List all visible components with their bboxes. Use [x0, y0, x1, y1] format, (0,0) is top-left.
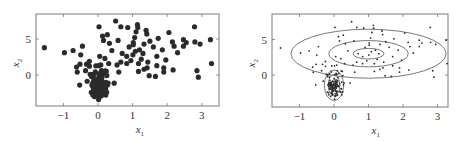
data-point [337, 85, 339, 87]
data-point [433, 76, 435, 78]
data-point [96, 24, 101, 29]
data-point [300, 52, 302, 54]
data-point [91, 75, 96, 80]
data-point [390, 76, 392, 78]
data-point [197, 41, 202, 46]
data-point [336, 84, 338, 86]
data-point [331, 65, 333, 67]
x-tick-label: −1 [58, 109, 70, 121]
data-point [145, 59, 150, 64]
data-point [357, 53, 359, 55]
data-point [62, 50, 67, 55]
data-point [392, 56, 394, 58]
data-point [412, 52, 414, 54]
data-point [364, 46, 366, 48]
data-point [335, 80, 337, 82]
data-point [329, 73, 331, 75]
data-point [125, 25, 130, 30]
data-point [342, 91, 344, 93]
data-point [172, 44, 177, 49]
data-point [136, 69, 141, 74]
left-scatter-panel: −1012305x1x2 [0, 0, 229, 141]
data-point [154, 63, 159, 68]
data-point [133, 29, 138, 34]
data-point [334, 85, 336, 87]
data-point [330, 71, 332, 73]
data-point [115, 38, 120, 43]
data-point [151, 44, 156, 49]
data-point [371, 32, 373, 34]
data-point [337, 80, 339, 82]
data-point [153, 74, 158, 79]
data-point [315, 63, 317, 65]
data-point [331, 86, 333, 88]
data-point [112, 81, 117, 86]
data-point [147, 73, 152, 78]
x-tick-label: 1 [130, 109, 136, 121]
data-point [141, 67, 146, 72]
data-point [100, 34, 105, 39]
data-point [370, 51, 372, 53]
data-point [362, 63, 364, 65]
data-point [132, 35, 137, 40]
data-point [333, 77, 335, 79]
data-point [329, 85, 331, 87]
data-point [77, 82, 82, 87]
y-axis-label: x2 [9, 58, 24, 68]
data-point [154, 54, 159, 59]
data-point [432, 70, 434, 72]
data-point [103, 86, 108, 91]
data-point [70, 48, 75, 53]
data-point [87, 64, 92, 69]
broad-contour-ellipse [329, 41, 408, 67]
data-point [102, 56, 107, 61]
data-point [342, 75, 344, 77]
data-point [430, 41, 432, 43]
x-tick-label: −1 [294, 110, 306, 122]
data-point [322, 80, 324, 82]
data-point [141, 41, 146, 46]
data-point [161, 65, 166, 70]
data-point [114, 62, 119, 67]
data-point [339, 91, 341, 93]
data-point [356, 27, 358, 29]
x-tick-label: 3 [199, 109, 205, 121]
data-point [140, 51, 145, 56]
data-point [399, 71, 401, 73]
data-point [373, 27, 375, 29]
data-point [418, 39, 420, 41]
data-point [77, 62, 82, 67]
data-point [97, 79, 102, 84]
data-point [156, 36, 161, 41]
data-point [163, 57, 168, 62]
data-point [334, 98, 336, 100]
x-tick-label: 0 [95, 109, 101, 121]
data-point [147, 39, 152, 44]
y-axis-label: x2 [245, 59, 260, 69]
data-point [342, 84, 344, 86]
data-point [166, 30, 171, 35]
y-tick-label: 5 [262, 34, 268, 46]
data-point [321, 70, 323, 72]
data-point [383, 61, 385, 63]
data-point [349, 82, 351, 84]
data-point [329, 76, 331, 78]
data-point [109, 48, 114, 53]
x-axis-label: x1 [135, 123, 145, 138]
data-layer [280, 21, 448, 101]
data-point [329, 80, 331, 82]
data-point [333, 87, 335, 89]
data-point [144, 31, 149, 36]
data-point [118, 24, 123, 29]
data-point [382, 67, 384, 69]
x-tick-label: 2 [400, 110, 406, 122]
data-point [340, 70, 342, 72]
data-point [324, 61, 326, 63]
data-point [90, 92, 95, 97]
data-point [103, 68, 108, 73]
data-point [339, 83, 341, 85]
data-layer [42, 18, 214, 102]
data-point [96, 63, 101, 68]
data-point [341, 94, 343, 96]
data-point [382, 34, 384, 36]
